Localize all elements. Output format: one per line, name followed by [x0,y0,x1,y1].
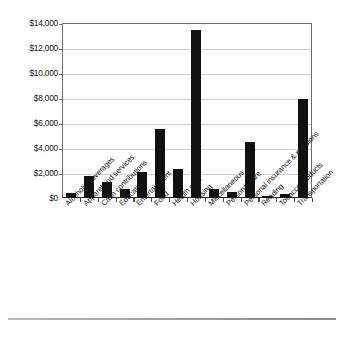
bar-chart-figure: $0$2,000$4,000$6,000$8,000$10,000$12,000… [0,0,345,337]
x-axis-labels: Alcoholic beveragesApparel and servicesC… [0,200,345,305]
y-axis-tick-label: $8,000 [34,94,58,102]
y-axis-tick-label: $6,000 [34,119,58,127]
y-axis-tick-label: $4,000 [34,144,58,152]
y-axis-tick-label: $12,000 [29,44,58,52]
y-axis-tick-label: $14,000 [29,19,58,27]
y-axis-labels: $0$2,000$4,000$6,000$8,000$10,000$12,000… [0,23,58,198]
y-axis-tick-label: $10,000 [29,69,58,77]
bottom-divider-rule [8,318,336,320]
y-axis-tick-label: $2,000 [34,169,58,177]
bar [191,30,201,198]
